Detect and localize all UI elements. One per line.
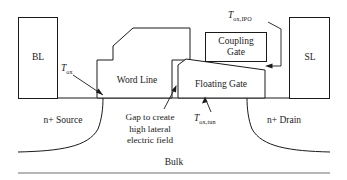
- coupling-gate-label: Coupling Gate: [218, 36, 253, 57]
- tox-annotation-label: Tox: [61, 63, 73, 76]
- sourceline-label: SL: [304, 52, 315, 63]
- diagram-vector-layer: [0, 0, 347, 180]
- gap-note-line1: Gap to create: [126, 112, 175, 124]
- gap-note-label: Gap to create high lateral electric fiel…: [126, 112, 175, 147]
- coupling-gate-label-line2: Gate: [218, 47, 253, 58]
- bulk-region-label: Bulk: [165, 157, 183, 168]
- word-line-label: Word Line: [117, 75, 158, 86]
- tox-tun-subscript: ox,tun: [199, 118, 215, 125]
- coupling-gate-label-line1: Coupling: [218, 36, 253, 47]
- tox-ipo-arrowhead: [265, 64, 273, 69]
- gap-note-line3: electric field: [126, 135, 175, 147]
- source-region-label: n+ Source: [44, 115, 83, 126]
- tox-ipo-annotation-label: Tox,IPO: [228, 10, 252, 23]
- tox-subscript: ox: [66, 68, 72, 75]
- gap-note-line2: high lateral: [126, 124, 175, 136]
- drain-region-label: n+ Drain: [267, 115, 301, 126]
- diagram-canvas: BL SL Word Line Floating Gate Coupling G…: [0, 0, 347, 180]
- bitline-label: BL: [32, 52, 44, 63]
- tox-ipo-leader-line: [268, 22, 281, 66]
- tox-tun-annotation-label: Tox,tun: [194, 113, 216, 126]
- tox-ipo-subscript: ox,IPO: [233, 15, 251, 22]
- floating-gate-label: Floating Gate: [195, 79, 247, 90]
